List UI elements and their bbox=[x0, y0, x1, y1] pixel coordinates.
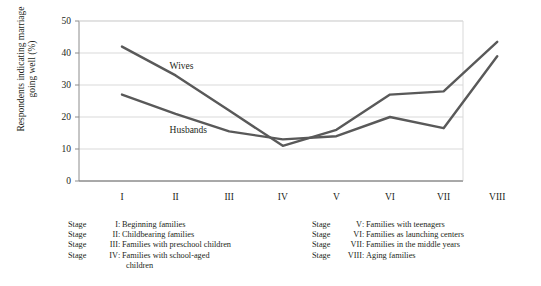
chart-plot-area: Respondents indicating marriage going we… bbox=[0, 0, 541, 212]
stage-legend-description: Aging families bbox=[366, 251, 416, 261]
stage-legend-description: Beginning families bbox=[122, 220, 185, 230]
stage-legend-left-column: StageI: Beginning familiesStageII: Child… bbox=[68, 220, 231, 271]
series-annotations-group: WivesHusbands bbox=[170, 61, 208, 135]
y-tick-label: 40 bbox=[62, 48, 72, 58]
stage-legend-word: Stage bbox=[68, 220, 96, 230]
stage-legend-word: Stage bbox=[68, 240, 96, 250]
stage-legend-word: Stage bbox=[312, 251, 340, 261]
y-tick-label: 0 bbox=[66, 176, 71, 186]
stage-legend-description: Families with school-aged bbox=[122, 251, 210, 261]
x-tick-label: VII bbox=[437, 192, 450, 202]
figure-container: Respondents indicating marriage going we… bbox=[0, 0, 541, 286]
x-tick-label: III bbox=[224, 192, 234, 202]
stage-legend-description-continued: children bbox=[68, 261, 153, 271]
y-tick-label: 20 bbox=[62, 112, 72, 122]
stage-legend-row: StageVI: Families as launching centers bbox=[312, 230, 464, 240]
stage-legend-numeral: VIII bbox=[340, 251, 362, 261]
stage-legend-row: StageI: Beginning families bbox=[68, 220, 231, 230]
x-tick-label: IV bbox=[278, 192, 288, 202]
x-tick-labels-group: IIIIIIIVVVIVIIVIII bbox=[120, 192, 505, 202]
line-chart-svg: 50403020100 IIIIIIIVVVIVIIVIII WivesHusb… bbox=[0, 0, 541, 212]
stage-legend-row: StageVIII: Aging families bbox=[312, 251, 464, 261]
series-inline-label: Wives bbox=[170, 61, 194, 71]
stage-legend-numeral: V bbox=[340, 220, 362, 230]
stage-legend-description: Families in the middle years bbox=[366, 240, 460, 250]
x-tick-label: V bbox=[333, 192, 340, 202]
x-tick-label: VIII bbox=[489, 192, 505, 202]
series-inline-label: Husbands bbox=[170, 125, 208, 135]
stage-legend-numeral: I bbox=[96, 220, 118, 230]
stage-legend-row: StageII: Childbearing families bbox=[68, 230, 231, 240]
stage-legend-right-column: StageV: Families with teenagersStageVI: … bbox=[312, 220, 464, 261]
stage-legend-word: Stage bbox=[68, 230, 96, 240]
stage-legend-numeral: VII bbox=[340, 240, 362, 250]
stage-legend-row: StageIV: Families with school-aged bbox=[68, 251, 231, 261]
stage-legend-numeral: IV bbox=[96, 251, 118, 261]
stage-legend-numeral: III bbox=[96, 240, 118, 250]
x-tick-label: VI bbox=[385, 192, 395, 202]
x-tick-label: I bbox=[120, 192, 123, 202]
x-tick-label: II bbox=[172, 192, 178, 202]
stage-legend-description: Childbearing families bbox=[122, 230, 194, 240]
stage-legend-row-continuation: children bbox=[68, 261, 231, 271]
y-tick-labels-group: 50403020100 bbox=[62, 16, 80, 186]
stage-legend-word: Stage bbox=[312, 240, 340, 250]
stage-legend: StageI: Beginning familiesStageII: Child… bbox=[0, 214, 541, 286]
stage-legend-description: Families as launching centers bbox=[366, 230, 464, 240]
y-tick-label: 30 bbox=[62, 80, 72, 90]
stage-legend-description: Families with teenagers bbox=[366, 220, 445, 230]
stage-legend-word: Stage bbox=[312, 220, 340, 230]
stage-legend-row: StageV: Families with teenagers bbox=[312, 220, 464, 230]
y-tick-label: 10 bbox=[62, 144, 72, 154]
stage-legend-row: StageVII: Families in the middle years bbox=[312, 240, 464, 250]
stage-legend-word: Stage bbox=[68, 251, 96, 261]
stage-legend-row: StageIII: Families with preschool childr… bbox=[68, 240, 231, 250]
stage-legend-description: Families with preschool children bbox=[122, 240, 231, 250]
stage-legend-word: Stage bbox=[312, 230, 340, 240]
stage-legend-numeral: VI bbox=[340, 230, 362, 240]
y-tick-label: 50 bbox=[62, 16, 72, 26]
stage-legend-numeral: II bbox=[96, 230, 118, 240]
